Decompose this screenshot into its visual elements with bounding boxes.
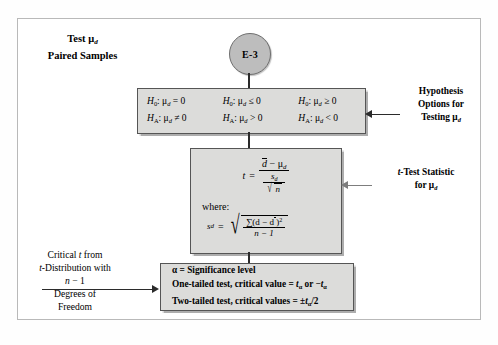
t-fraction: d − μd sd √n — [259, 158, 289, 194]
arrow-head-critical — [152, 285, 159, 293]
critical-line-alpha: α = Significance level — [172, 263, 353, 277]
title-text-1: Test μ — [67, 33, 94, 44]
t-symbol: t — [243, 170, 246, 181]
critical-line-two-tailed: Two-tailed test, critical values = ±tα/2 — [172, 294, 353, 311]
sd-numerator: ∑(d − d )2 — [243, 217, 285, 227]
critical-value-box: α = Significance level One-tailed test, … — [160, 263, 354, 311]
hypothesis-null-1: H0: μd = 0 — [147, 94, 214, 111]
hypothesis-column-3: H0: μd ≥ 0 HA: μd < 0 — [289, 94, 365, 128]
critical-line-one-tailed: One-tailed test, critical value = tα or … — [172, 277, 353, 294]
title-line-1: Test μd — [30, 32, 135, 49]
arrow-line-hypothesis — [372, 114, 400, 115]
arrow-head-hypothesis — [365, 110, 372, 118]
hypothesis-column-1: H0: μd = 0 HA: μd ≠ 0 — [138, 94, 214, 128]
annotation-critical-line-1: Critical t from — [16, 248, 134, 261]
t-denominator: sd √n — [259, 170, 289, 194]
annotation-critical-line-2: t-Distribution with — [16, 261, 134, 274]
sd-radical: √ ∑(d − d )2 n − 1 — [228, 215, 289, 238]
node-e3: E-3 — [229, 33, 271, 75]
connector-hypothesis-to-formula — [248, 132, 250, 148]
t-test-statistic-box: t = d − μd sd √n where: sd = √ — [190, 148, 342, 254]
sd-denominator: n − 1 — [243, 227, 285, 238]
sd-formula: sd = √ ∑(d − d )2 n − 1 — [207, 215, 341, 238]
annotation-tstat-line-1: t-Test Statistic — [368, 166, 484, 179]
annotation-critical-line-3: n − 1 — [16, 274, 134, 287]
annotation-hyp-line-1: Hypothesis — [400, 85, 482, 98]
sqrt-n: √n — [266, 183, 282, 194]
connector-formula-to-critical — [248, 252, 250, 263]
arrow-line-critical — [42, 289, 153, 290]
hypothesis-null-3: H0: μd ≥ 0 — [298, 94, 365, 111]
equals-sign: = — [249, 170, 255, 181]
title-subscript: d — [94, 38, 98, 46]
arrow-head-tstat — [341, 181, 348, 189]
annotation-critical-t: Critical t from t-Distribution with n − … — [16, 248, 134, 313]
hypothesis-alt-2: HA: μd > 0 — [223, 111, 290, 128]
annotation-hyp-line-3: Testing μd — [400, 111, 482, 126]
title-line-2: Paired Samples — [30, 49, 135, 63]
annotation-critical-line-5: Freedom — [16, 300, 134, 313]
hypothesis-options-box: H0: μd = 0 HA: μd ≠ 0 H0: μd ≤ 0 HA: μd … — [137, 88, 366, 134]
page-title: Test μd Paired Samples — [30, 32, 135, 63]
t-statistic-formula: t = d − μd sd √n — [191, 158, 341, 194]
node-e3-label: E-3 — [242, 49, 258, 60]
t-numerator: d − μd — [259, 158, 289, 170]
hypothesis-alt-1: HA: μd ≠ 0 — [147, 111, 214, 128]
annotation-hyp-line-2: Options for — [400, 98, 482, 111]
annotation-hypothesis-options: Hypothesis Options for Testing μd — [400, 85, 482, 126]
hypothesis-alt-3: HA: μd < 0 — [298, 111, 365, 128]
diagram-canvas: Test μd Paired Samples E-3 H0: μd = 0 HA… — [0, 0, 498, 345]
annotation-t-test-statistic: t-Test Statistic for μd — [368, 166, 484, 194]
connector-node-to-hypothesis — [248, 73, 250, 88]
where-label: where: — [202, 201, 341, 212]
hypothesis-null-2: H0: μd ≤ 0 — [223, 94, 290, 111]
arrow-line-tstat — [348, 185, 372, 186]
annotation-tstat-line-2: for μd — [368, 179, 484, 194]
hypothesis-column-2: H0: μd ≤ 0 HA: μd > 0 — [214, 94, 290, 128]
